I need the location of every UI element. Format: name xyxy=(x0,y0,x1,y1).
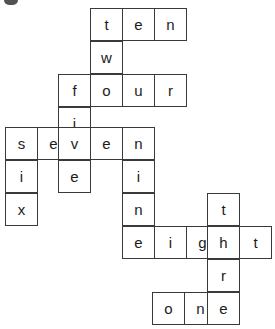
crossword-cell: n xyxy=(122,127,155,160)
crossword-cell: i xyxy=(122,160,155,193)
crossword-cell: e xyxy=(90,127,123,160)
crossword-cell: i xyxy=(154,226,187,259)
crossword-cell: t xyxy=(207,193,240,226)
crossword-cell: e xyxy=(207,292,240,325)
crossword-cell: u xyxy=(122,74,155,107)
crossword-cell: o xyxy=(152,292,185,325)
crossword-cell: o xyxy=(90,74,123,107)
crossword-cell: e xyxy=(58,160,91,193)
crossword-cell: r xyxy=(207,259,240,292)
crossword-cell: t xyxy=(90,8,123,41)
crossword-cell: e xyxy=(122,226,155,259)
crossword-grid: tenwfourisevenieixnteightreone xyxy=(0,0,275,329)
crossword-cell: s xyxy=(5,127,38,160)
crossword-cell: i xyxy=(5,160,38,193)
crossword-cell: w xyxy=(90,41,123,74)
crossword-cell: n xyxy=(154,8,187,41)
crossword-cell: e xyxy=(122,8,155,41)
crossword-cell: r xyxy=(154,74,187,107)
crossword-cell: f xyxy=(58,74,91,107)
crossword-cell: h xyxy=(207,226,240,259)
crossword-cell: t xyxy=(239,226,272,259)
crossword-cell: n xyxy=(122,193,155,226)
crossword-cell: v xyxy=(58,127,91,160)
crossword-cell: x xyxy=(5,193,38,226)
clipped-label-artifact xyxy=(4,0,18,5)
